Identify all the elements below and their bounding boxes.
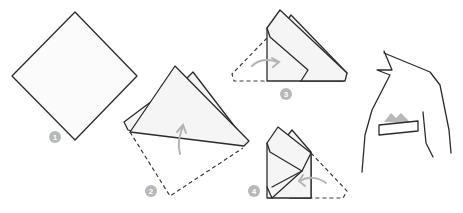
breast-pocket — [379, 121, 418, 135]
step-4-badge: 4 — [248, 185, 260, 197]
step-4-fold — [267, 127, 347, 198]
step-2-number: 2 — [149, 187, 154, 196]
folding-diagram: 1 2 3 — [0, 0, 463, 213]
jacket-front-line — [423, 112, 433, 157]
pocket-square-peaks — [384, 113, 410, 123]
step-1-badge: 1 — [49, 131, 61, 143]
step-1-diamond — [12, 12, 137, 140]
step-3-fold — [232, 10, 347, 81]
step-2-badge: 2 — [145, 185, 157, 197]
jacket-lapel-line — [362, 51, 392, 172]
jacket-illustration — [362, 51, 451, 172]
step-2-fold — [124, 66, 249, 196]
step-4-number: 4 — [252, 187, 257, 196]
jacket-shoulder-line — [384, 53, 451, 153]
step-3-badge: 3 — [280, 88, 292, 100]
step-3-number: 3 — [284, 90, 289, 99]
step-1-number: 1 — [53, 133, 58, 142]
